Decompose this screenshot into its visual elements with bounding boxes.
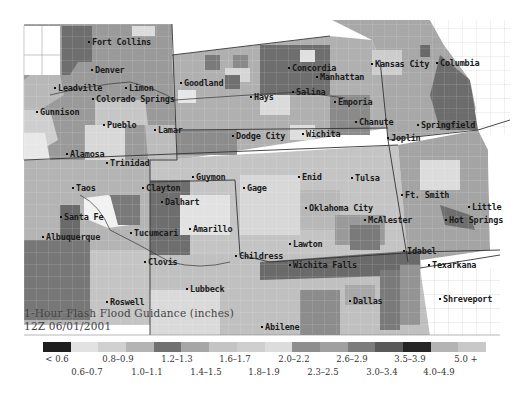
city-label: Lawton <box>293 239 323 249</box>
city-marker-icon <box>298 176 300 178</box>
city-label: Ft. Smith <box>405 190 449 200</box>
city-label: Trinidad <box>110 158 149 168</box>
city-label: Springfield <box>421 120 475 130</box>
city-label: Colorado Springs <box>96 94 175 104</box>
legend-swatch <box>292 342 320 352</box>
city-marker-icon <box>261 326 263 328</box>
city-marker-icon <box>355 121 357 123</box>
legend-range-label: 3.5–3.9 <box>394 354 425 364</box>
city-marker-icon <box>66 153 68 155</box>
city-label: Fort Collins <box>92 37 151 47</box>
city-label: Dalhart <box>165 197 199 207</box>
city-label: Childress <box>239 251 283 261</box>
city-marker-icon <box>235 255 237 257</box>
city-label: Chanute <box>359 117 393 127</box>
city-marker-icon <box>387 137 389 139</box>
city-label: Gage <box>247 183 267 193</box>
city-marker-icon <box>439 298 441 300</box>
legend-swatch <box>431 342 459 352</box>
city-label: Lubbeck <box>190 284 224 294</box>
legend-range-label: 4.0–4.9 <box>423 367 454 377</box>
city-label: Dodge City <box>236 131 285 141</box>
city-label: Hot Springs <box>449 215 503 225</box>
city-label: Roswell <box>110 297 144 307</box>
map-canvas <box>0 0 522 340</box>
city-label: Salina <box>296 87 326 97</box>
legend-swatch <box>71 342 99 352</box>
city-marker-icon <box>349 300 351 302</box>
city-marker-icon <box>302 133 304 135</box>
city-label: Kansas City <box>375 59 429 69</box>
legend-swatch <box>458 342 486 352</box>
city-label: Amarillo <box>193 224 232 234</box>
legend-range-label: < 0.6 <box>45 354 68 364</box>
city-label: Goodland <box>184 78 223 88</box>
city-label: Limon <box>129 83 154 93</box>
city-label: Shreveport <box>443 294 492 304</box>
city-marker-icon <box>36 111 38 113</box>
city-label: Wichita <box>306 129 340 139</box>
city-marker-icon <box>142 187 144 189</box>
city-label: Idabel <box>407 246 437 256</box>
legend-range-label: 0.6–0.7 <box>71 367 102 377</box>
legend-swatch <box>237 342 265 352</box>
city-marker-icon <box>436 62 438 64</box>
city-label: Guymon <box>196 172 226 182</box>
city-marker-icon <box>428 264 430 266</box>
city-marker-icon <box>371 63 373 65</box>
city-marker-icon <box>403 250 405 252</box>
legend-range-label: 3.0–3.4 <box>366 367 397 377</box>
city-label: Leadville <box>58 83 102 93</box>
city-label: Gunnison <box>40 107 79 117</box>
city-label: Manhattan <box>320 72 364 82</box>
city-marker-icon <box>91 69 93 71</box>
city-label: Tucumcari <box>134 228 178 238</box>
city-label: Clovis <box>148 257 178 267</box>
city-marker-icon <box>334 101 336 103</box>
legend-swatch <box>126 342 154 352</box>
city-label: Little <box>472 202 502 212</box>
city-marker-icon <box>161 201 163 203</box>
legend-swatch <box>320 342 348 352</box>
city-marker-icon <box>103 124 105 126</box>
city-label: Denver <box>95 65 125 75</box>
city-marker-icon <box>92 98 94 100</box>
city-marker-icon <box>189 228 191 230</box>
legend-range-label: 1.2–1.3 <box>161 354 192 364</box>
city-label: Dallas <box>353 296 383 306</box>
legend-swatch <box>403 342 431 352</box>
city-marker-icon <box>305 207 307 209</box>
city-marker-icon <box>289 243 291 245</box>
city-marker-icon <box>468 206 470 208</box>
city-marker-icon <box>106 162 108 164</box>
legend-range-label: 0.8–0.9 <box>102 354 133 364</box>
legend-range-label: 2.6–2.9 <box>336 354 367 364</box>
city-label: Alamosa <box>70 149 104 159</box>
city-label: Texarkana <box>432 260 476 270</box>
city-label: Joplin <box>391 133 421 143</box>
city-marker-icon <box>351 177 353 179</box>
legend-color-bar <box>43 342 486 352</box>
city-marker-icon <box>180 82 182 84</box>
city-marker-icon <box>289 264 291 266</box>
legend-swatch <box>43 342 71 352</box>
legend-range-label: 1.6–1.7 <box>219 354 250 364</box>
city-marker-icon <box>250 96 252 98</box>
legend-range-label: 5.0 + <box>454 354 477 364</box>
city-marker-icon <box>125 87 127 89</box>
city-marker-icon <box>186 288 188 290</box>
city-marker-icon <box>292 91 294 93</box>
city-label: Emporia <box>338 97 372 107</box>
legend-swatch <box>181 342 209 352</box>
city-marker-icon <box>72 187 74 189</box>
city-marker-icon <box>60 216 62 218</box>
city-label: Santa Fe <box>64 212 103 222</box>
city-label: Taos <box>76 183 96 193</box>
city-marker-icon <box>232 135 234 137</box>
city-label: Oklahoma City <box>309 203 373 213</box>
legend-range-label: 1.0–1.1 <box>131 367 162 377</box>
legend-swatch <box>154 342 182 352</box>
city-marker-icon <box>364 219 366 221</box>
city-label: Columbia <box>440 58 479 68</box>
city-marker-icon <box>316 76 318 78</box>
